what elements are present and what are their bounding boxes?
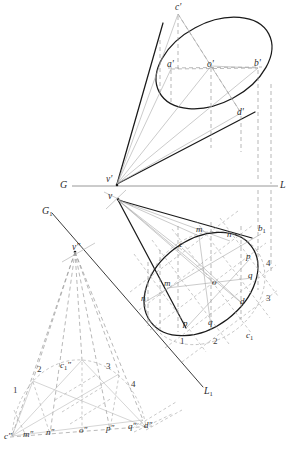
point-p-double-prime: p" [106, 424, 114, 433]
point-d-plan: d [240, 297, 245, 306]
plan-number-3: 3 [266, 294, 271, 303]
auxiliary-view [10, 252, 182, 437]
point-m-lower: m [164, 279, 171, 288]
plan-main-axes [145, 234, 261, 328]
plan-vertical-projectors [148, 190, 271, 332]
aux-number-3: 3 [106, 362, 111, 371]
ground-line-left-label: G [60, 180, 67, 190]
front-ellipse-chords [171, 14, 258, 113]
front-view-rays [117, 14, 258, 184]
point-c-plan: c [179, 240, 183, 249]
plan-number-1: 1 [180, 337, 185, 346]
point-o-double-prime: o" [79, 426, 87, 435]
point-v-plan: v [108, 192, 112, 202]
plan-rays [118, 200, 244, 305]
point-v-prime: v' [106, 175, 112, 185]
aux-number-1: 1 [13, 386, 18, 395]
point-c-prime: c' [175, 3, 181, 13]
point-n-double-prime: n" [46, 428, 54, 437]
cone-left-generator [117, 23, 163, 184]
top-view-plan [52, 190, 287, 387]
aux-number-2: 2 [37, 365, 42, 374]
point-d-prime: d' [237, 108, 244, 118]
point-q-right: q [248, 271, 253, 280]
drawing-svg: .solid{fill:none;stroke:#1a1a1a;stroke-w… [0, 0, 292, 455]
point-m-double-prime: m" [23, 430, 33, 439]
point-a-prime: a' [167, 60, 174, 70]
aux-number-4: 4 [131, 380, 136, 389]
front-view-cone [117, 0, 288, 184]
point-v-double-prime: v" [72, 243, 80, 253]
auxiliary-transfer-strokes [55, 375, 182, 432]
point-m-upper: m [196, 225, 203, 234]
point-p-lower: p [183, 319, 188, 328]
front-base-ellipse [140, 0, 287, 127]
point-b-prime: b' [254, 59, 261, 69]
point-c-double-prime: c" [4, 432, 12, 441]
point-c1-plan: c1 [246, 331, 253, 342]
point-q-lower: q [208, 318, 213, 327]
point-p-upper: p [246, 252, 251, 261]
plan-number-2: 2 [213, 337, 218, 346]
point-n-lower: n [141, 294, 146, 303]
aux-ground-line-left-label: G1 [42, 206, 52, 218]
point-o-prime: o' [207, 60, 214, 70]
aux-ground-line-right-label: L1 [204, 386, 213, 398]
point-c1-double-prime: c1" [60, 361, 71, 372]
plan-number-4: 4 [266, 259, 271, 268]
point-n-upper: n [227, 230, 232, 239]
ground-line-right-label: L [280, 180, 286, 190]
point-b1: b1 [258, 224, 266, 235]
point-d-double-prime: d" [144, 421, 152, 430]
auxiliary-rays [12, 252, 143, 436]
technical-drawing-canvas: .solid{fill:none;stroke:#1a1a1a;stroke-w… [0, 0, 292, 455]
plan-left-generator [118, 200, 186, 328]
cone-right-generator [117, 112, 255, 184]
point-q-double-prime: q" [128, 422, 136, 431]
point-o-plan: o [212, 278, 217, 287]
